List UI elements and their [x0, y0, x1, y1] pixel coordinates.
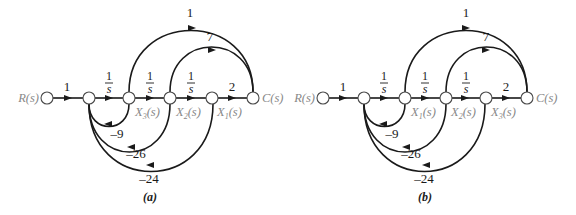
gain-fraction: 1 s [462, 69, 470, 96]
arrow-icon [502, 95, 510, 101]
signal-flow-graphs: R(s) C(s) 1 1 s 1 s 1 s 2 1 7 X3(s) X2(s… [0, 0, 576, 215]
node-summing [358, 92, 370, 104]
node-output [247, 92, 259, 104]
node-state-1 [123, 92, 135, 104]
svg-text:s: s [464, 82, 469, 96]
node-state-1 [399, 92, 411, 104]
svg-text:1: 1 [422, 69, 428, 83]
node-summing [83, 92, 95, 104]
gain-label: 2 [503, 79, 510, 94]
svg-text:s: s [382, 82, 387, 96]
gain-label: 1 [340, 79, 347, 94]
input-label: R(s) [17, 91, 39, 105]
node-input [41, 92, 53, 104]
node-state-2 [164, 92, 176, 104]
feedback-gain: –26 [125, 146, 146, 161]
node-output [521, 92, 533, 104]
svg-text:1: 1 [106, 69, 112, 83]
node-input [317, 92, 329, 104]
svg-text:1: 1 [381, 69, 387, 83]
caption: (b) [418, 190, 432, 204]
svg-text:s: s [107, 82, 112, 96]
gain-fraction: 1 s [380, 69, 388, 96]
feedback-gain: –9 [110, 126, 124, 141]
node-state-3 [206, 92, 218, 104]
feedback-gain: –9 [385, 126, 399, 141]
state-label: X3(s) [134, 105, 160, 121]
input-label: R(s) [293, 91, 315, 105]
arrow-icon [228, 95, 236, 101]
gain-fraction: 1 s [187, 69, 195, 96]
svg-text:s: s [423, 82, 428, 96]
gain-label: 2 [229, 79, 236, 94]
feedforward-gain: 1 [463, 5, 470, 20]
state-label: X1(s) [216, 105, 242, 121]
diagram-a: R(s) C(s) 1 1 s 1 s 1 s 2 1 7 X3(s) X2(s… [17, 5, 283, 204]
feedforward-gain: 1 [187, 5, 194, 20]
gain-fraction: 1 s [105, 69, 113, 96]
svg-text:1: 1 [188, 69, 194, 83]
feedforward-gain: 7 [207, 29, 214, 44]
arrow-icon [482, 47, 490, 53]
state-label: X2(s) [450, 105, 476, 121]
svg-text:1: 1 [463, 69, 469, 83]
feedback-gain: –24 [413, 171, 434, 186]
feedback-gain: –24 [138, 171, 159, 186]
state-label: X1(s) [410, 105, 436, 121]
gain-fraction: 1 s [146, 69, 154, 96]
output-label: C(s) [262, 91, 284, 105]
arrow-icon [146, 162, 154, 168]
feedforward-gain: 7 [483, 29, 490, 44]
feedback-gain: –26 [400, 146, 421, 161]
arrow-icon [339, 95, 347, 101]
arrow-icon [422, 162, 430, 168]
output-label: C(s) [536, 91, 558, 105]
svg-text:s: s [189, 82, 194, 96]
gain-fraction: 1 s [421, 69, 429, 96]
gain-label: 1 [64, 79, 71, 94]
svg-text:1: 1 [147, 69, 153, 83]
state-label: X2(s) [175, 105, 201, 121]
caption: (a) [143, 190, 157, 204]
node-state-2 [440, 92, 452, 104]
node-state-3 [480, 92, 492, 104]
state-label: X3(s) [490, 105, 516, 121]
svg-text:s: s [148, 82, 153, 96]
arrow-icon [64, 95, 72, 101]
diagram-b: R(s) C(s) 1 1 s 1 s 1 s 2 1 7 X1(s) X2(s… [293, 5, 557, 204]
